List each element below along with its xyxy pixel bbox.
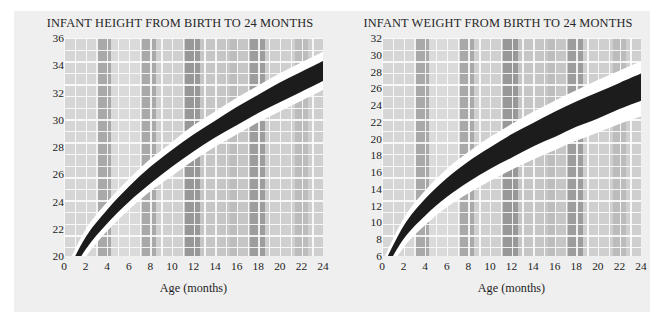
chart-title-weight: INFANT WEIGHT FROM BIRTH TO 24 MONTHS bbox=[332, 16, 650, 31]
y-axis-ticks-height: 202224262830323436 bbox=[18, 38, 64, 256]
x-tick-infant-weight: 24 bbox=[635, 260, 646, 272]
y-tick-infant-weight: 14 bbox=[342, 183, 382, 195]
x-tick-infant-height: 22 bbox=[296, 260, 307, 272]
x-tick-infant-height: 20 bbox=[274, 260, 285, 272]
plot-area-weight bbox=[382, 38, 641, 256]
x-tick-infant-weight: 16 bbox=[549, 260, 560, 272]
x-tick-infant-weight: 14 bbox=[527, 260, 538, 272]
x-tick-infant-height: 6 bbox=[126, 260, 132, 272]
charts-card: INFANT HEIGHT FROM BIRTH TO 24 MONTHS He… bbox=[14, 11, 650, 312]
y-tick-infant-height: 20 bbox=[24, 250, 64, 262]
y-tick-infant-weight: 26 bbox=[342, 82, 382, 94]
x-tick-infant-height: 12 bbox=[188, 260, 199, 272]
x-tick-infant-weight: 0 bbox=[379, 260, 385, 272]
x-axis-title-height: Age (months) bbox=[64, 281, 323, 296]
x-tick-infant-weight: 4 bbox=[422, 260, 428, 272]
y-tick-infant-height: 22 bbox=[24, 223, 64, 235]
chart-title-height: INFANT HEIGHT FROM BIRTH TO 24 MONTHS bbox=[14, 16, 332, 31]
y-tick-infant-height: 36 bbox=[24, 32, 64, 44]
y-tick-infant-weight: 18 bbox=[342, 149, 382, 161]
x-tick-infant-height: 10 bbox=[166, 260, 177, 272]
x-tick-infant-height: 0 bbox=[61, 260, 67, 272]
y-tick-infant-weight: 16 bbox=[342, 166, 382, 178]
y-tick-infant-weight: 12 bbox=[342, 200, 382, 212]
growth-band-height bbox=[64, 38, 323, 256]
x-axis-ticks-height: 024681012141618202224 bbox=[64, 260, 323, 274]
x-tick-infant-height: 24 bbox=[317, 260, 328, 272]
plot-area-height bbox=[64, 38, 323, 256]
x-tick-infant-height: 18 bbox=[253, 260, 264, 272]
x-axis-title-weight: Age (months) bbox=[382, 281, 641, 296]
y-tick-infant-weight: 10 bbox=[342, 216, 382, 228]
y-tick-infant-height: 30 bbox=[24, 114, 64, 126]
y-tick-infant-weight: 24 bbox=[342, 99, 382, 111]
y-tick-infant-height: 34 bbox=[24, 59, 64, 71]
y-tick-infant-weight: 22 bbox=[342, 116, 382, 128]
x-tick-infant-height: 16 bbox=[231, 260, 242, 272]
x-tick-infant-height: 2 bbox=[83, 260, 89, 272]
x-tick-infant-weight: 18 bbox=[571, 260, 582, 272]
x-axis-ticks-weight: 024681012141618202224 bbox=[382, 260, 641, 274]
growth-band-weight bbox=[382, 38, 641, 256]
x-tick-infant-height: 4 bbox=[104, 260, 110, 272]
x-tick-infant-weight: 12 bbox=[506, 260, 517, 272]
y-tick-infant-weight: 6 bbox=[342, 250, 382, 262]
x-tick-infant-weight: 6 bbox=[444, 260, 450, 272]
y-tick-infant-height: 24 bbox=[24, 196, 64, 208]
y-tick-infant-height: 32 bbox=[24, 87, 64, 99]
y-tick-infant-weight: 20 bbox=[342, 133, 382, 145]
x-tick-infant-weight: 22 bbox=[614, 260, 625, 272]
x-tick-infant-weight: 2 bbox=[401, 260, 407, 272]
y-tick-infant-weight: 28 bbox=[342, 66, 382, 78]
x-tick-infant-weight: 20 bbox=[592, 260, 603, 272]
y-tick-infant-height: 28 bbox=[24, 141, 64, 153]
y-axis-ticks-weight: 68101214161820222426283032 bbox=[336, 38, 382, 256]
x-tick-infant-height: 14 bbox=[209, 260, 220, 272]
y-tick-infant-weight: 8 bbox=[342, 233, 382, 245]
x-tick-infant-height: 8 bbox=[147, 260, 153, 272]
chart-infant-height: INFANT HEIGHT FROM BIRTH TO 24 MONTHS He… bbox=[14, 11, 332, 312]
x-tick-infant-weight: 10 bbox=[484, 260, 495, 272]
screenshot-root: INFANT HEIGHT FROM BIRTH TO 24 MONTHS He… bbox=[0, 0, 663, 325]
y-tick-infant-weight: 32 bbox=[342, 32, 382, 44]
x-tick-infant-weight: 8 bbox=[465, 260, 471, 272]
y-tick-infant-height: 26 bbox=[24, 168, 64, 180]
y-tick-infant-weight: 30 bbox=[342, 49, 382, 61]
chart-infant-weight: INFANT WEIGHT FROM BIRTH TO 24 MONTHS We… bbox=[332, 11, 650, 312]
